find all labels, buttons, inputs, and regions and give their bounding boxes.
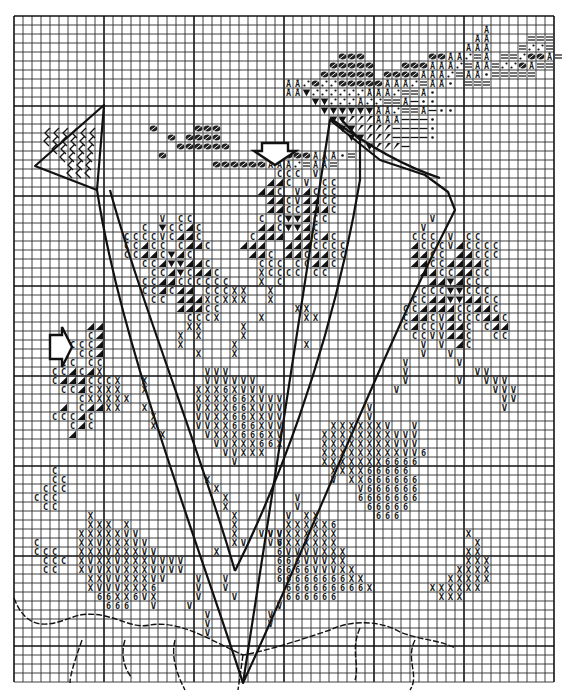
stitch-symbol-X: X <box>241 448 247 458</box>
dots-icon <box>528 48 530 50</box>
stitch-symbol-X: X <box>439 592 445 602</box>
stitch-symbol-A: Å <box>322 160 327 170</box>
stitch-symbol-V: V <box>160 574 166 584</box>
stitch-symbol-C: C <box>196 277 201 287</box>
stitch-symbol-V: V <box>511 394 517 404</box>
stitch-symbol-X: X <box>223 295 229 305</box>
stitch-symbol-A: Å <box>394 115 399 125</box>
stitch-symbol-C: C <box>79 367 84 377</box>
dots-icon <box>334 89 336 91</box>
stitch-symbol-X: X <box>223 502 229 512</box>
stitch-symbol-6: 6 <box>412 493 417 503</box>
stitch-symbol-V: V <box>187 601 193 611</box>
stitch-symbol-C: C <box>187 277 192 287</box>
stitch-symbol-C: C <box>493 304 498 314</box>
stitch-symbol-X: X <box>259 277 265 287</box>
dots-icon <box>303 84 305 86</box>
stitch-symbol-A: Å <box>484 61 489 71</box>
stitch-symbol-A: Å <box>403 79 408 89</box>
stitch-symbol-C: C <box>205 313 210 323</box>
stitch-symbol-C: C <box>430 259 435 269</box>
stitch-symbol-6: 6 <box>97 592 102 602</box>
dots-icon <box>393 111 395 113</box>
stitch-symbol-A: Å <box>385 115 390 125</box>
stitch-symbol-C: C <box>421 295 426 305</box>
stitch-symbol-X: X <box>151 421 157 431</box>
stitch-symbol-C: C <box>277 169 282 179</box>
stitch-symbol-C: C <box>439 268 444 278</box>
stitch-symbol-X: X <box>241 295 247 305</box>
stitch-symbol-C: C <box>61 385 66 395</box>
stitch-symbol-X: X <box>250 448 256 458</box>
stitch-symbol-X: X <box>196 331 202 341</box>
stitch-symbol-C: C <box>160 295 165 305</box>
dot-icon <box>449 109 452 112</box>
stitch-symbol-A: Å <box>421 106 426 116</box>
stitch-symbol-6: 6 <box>376 511 381 521</box>
dot-icon <box>431 118 434 121</box>
stitch-symbol-V: V <box>403 376 409 386</box>
stitch-symbol-C: C <box>142 286 147 296</box>
stitch-symbol-C: C <box>403 322 408 332</box>
dot-icon <box>485 73 488 76</box>
stitch-symbol-V: V <box>475 367 481 377</box>
dots-icon <box>343 98 345 100</box>
stitch-symbol-6: 6 <box>286 592 291 602</box>
dots-icon <box>334 80 336 82</box>
stitch-symbol-C: C <box>250 232 255 242</box>
stitch-symbol-A: Å <box>376 88 381 98</box>
stitch-symbol-C: C <box>88 358 93 368</box>
stitch-symbol-X: X <box>457 592 463 602</box>
dots-icon <box>456 66 458 68</box>
stitch-symbol-V: V <box>214 439 220 449</box>
stitch-symbol-C: C <box>169 286 174 296</box>
stitch-symbol-6: 6 <box>115 601 120 611</box>
stitch-symbol-X: X <box>205 475 211 485</box>
stitch-symbol-C: C <box>439 286 444 296</box>
stitch-symbol-A: Å <box>457 52 462 62</box>
stitch-symbol-C: C <box>295 169 300 179</box>
stitch-symbol-C: C <box>70 385 75 395</box>
dots-icon <box>348 102 350 104</box>
dots-icon <box>469 53 471 55</box>
stitch-symbol-V: V <box>430 331 436 341</box>
stitch-symbol-V: V <box>331 475 337 485</box>
dot-icon <box>431 91 434 94</box>
dots-icon <box>532 44 534 46</box>
stitch-symbol-C: C <box>61 556 66 566</box>
stitch-symbol-C: C <box>205 241 210 251</box>
stitch-symbol-X: X <box>349 475 355 485</box>
stitch-symbol-C: C <box>313 187 318 197</box>
stitch-symbol-C: C <box>475 286 480 296</box>
dots-icon <box>447 75 449 77</box>
stitch-symbol-C: C <box>466 340 471 350</box>
stitch-symbol-C: C <box>205 259 210 269</box>
dots-icon <box>321 93 323 95</box>
dots-icon <box>339 93 341 95</box>
stitch-symbol-A: Å <box>286 160 291 170</box>
dots-icon <box>294 165 296 167</box>
stitch-symbol-A: Å <box>430 79 435 89</box>
dots-icon <box>375 102 377 104</box>
dots-icon <box>348 93 350 95</box>
stitch-symbol-X: X <box>340 466 346 476</box>
stitch-symbol-X: X <box>367 583 373 593</box>
stitch-symbol-X: X <box>313 313 319 323</box>
stitch-symbol-C: C <box>160 268 165 278</box>
dots-icon <box>316 89 318 91</box>
stitch-symbol-C: C <box>88 421 93 431</box>
stitch-symbol-X: X <box>232 295 238 305</box>
stitch-symbol-A: Å <box>448 61 453 71</box>
stitch-symbol-A: Å <box>367 88 372 98</box>
stitch-symbol-C: C <box>79 349 84 359</box>
stitch-symbol-C: C <box>196 232 201 242</box>
stitch-symbol-X: X <box>88 394 94 404</box>
dots-icon <box>307 80 309 82</box>
dot-icon <box>431 136 434 139</box>
dots-icon <box>397 89 399 91</box>
stitch-symbol-C: C <box>484 295 489 305</box>
stitch-symbol-X: X <box>277 439 283 449</box>
stitch-symbol-6: 6 <box>367 502 372 512</box>
stitch-symbol-C: C <box>493 331 498 341</box>
stitch-symbol-C: C <box>187 214 192 224</box>
